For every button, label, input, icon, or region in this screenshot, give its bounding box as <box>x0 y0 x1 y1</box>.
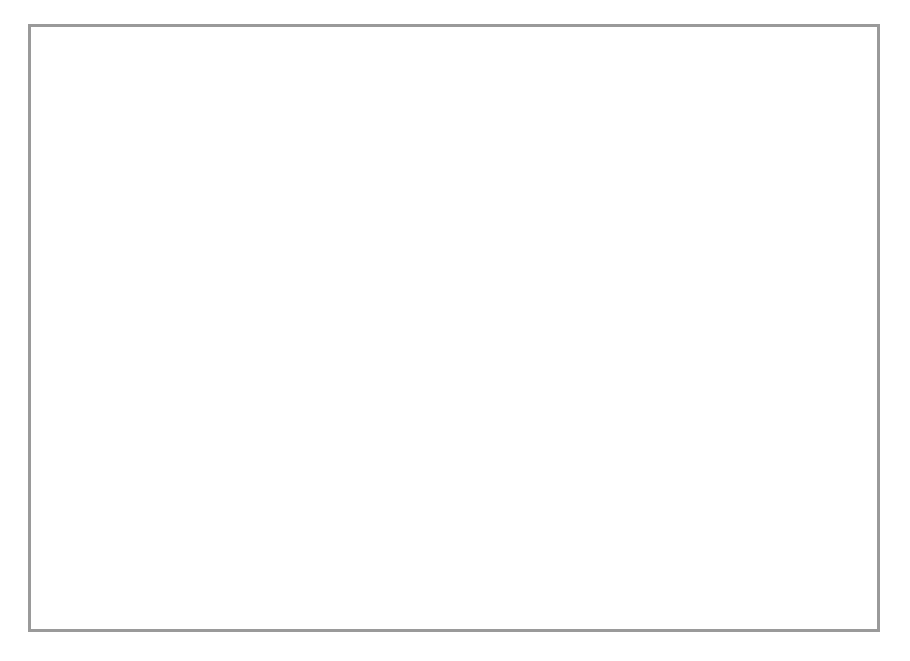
figure-border <box>28 24 880 632</box>
chart-container: 405060708090100JanuaryFebruaryMarchApril… <box>0 0 910 661</box>
